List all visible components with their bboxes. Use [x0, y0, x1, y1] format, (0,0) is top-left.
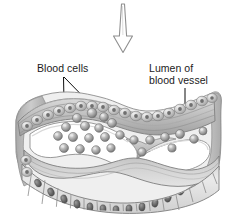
blood-cell [60, 144, 69, 153]
blood-cell-highlight [108, 145, 111, 147]
figure-container: Blood cells Lumen ofblood vessel [0, 0, 231, 217]
blood-cell-highlight [77, 146, 80, 148]
blood-cell [168, 144, 176, 152]
blood-cell [72, 113, 81, 122]
blood-cell [95, 124, 104, 133]
blood-cell [190, 135, 199, 144]
blood-cell [100, 113, 109, 122]
blood-cell-highlight [70, 134, 73, 136]
label-blood-cells: Blood cells [37, 62, 88, 74]
blood-cell-highlight [117, 132, 120, 134]
blood-cell [130, 136, 138, 144]
blood-cell-highlight [131, 137, 134, 139]
blood-cell [54, 132, 63, 141]
blood-cell-highlight [101, 114, 104, 116]
blood-cell [85, 134, 94, 143]
blood-cell-highlight [109, 120, 112, 122]
blood-cell-highlight [55, 133, 58, 135]
blood-vessel-cross-section-illustration [0, 0, 231, 217]
blood-cell-highlight [200, 129, 203, 131]
blood-cell-highlight [63, 124, 66, 126]
blood-cell [92, 146, 101, 155]
blood-cell [68, 132, 77, 141]
blood-cell-highlight [93, 147, 96, 149]
blood-cell [76, 145, 85, 154]
blood-cell [62, 123, 71, 132]
blood-cell-highlight [169, 145, 172, 147]
blood-cell-highlight [147, 137, 150, 139]
blood-cell-highlight [86, 135, 89, 137]
label-lumen-line1: Lumen of [149, 62, 193, 74]
blood-cell [80, 121, 89, 130]
label-lumen-of-blood-vessel: Lumen ofblood vessel [149, 62, 208, 86]
blood-cell [101, 133, 110, 142]
blood-cell-highlight [177, 131, 180, 133]
label-lumen-line2: blood vessel [149, 74, 208, 86]
blood-cell [176, 130, 185, 139]
blood-cell [146, 136, 155, 145]
label-blood-cells-line1: Blood cells [37, 62, 88, 74]
blood-cell [161, 133, 170, 142]
blood-cell-highlight [102, 134, 105, 136]
blood-cell-highlight [162, 134, 165, 136]
vessel-body [16, 92, 221, 217]
blood-cell [199, 127, 207, 135]
blood-cell-highlight [89, 110, 92, 112]
blood-cell [108, 119, 117, 128]
blood-cell-highlight [96, 125, 99, 127]
blood-cell-highlight [191, 136, 194, 138]
blood-cell [116, 131, 125, 140]
blood-cell-highlight [82, 123, 85, 125]
blood-cell-highlight [139, 149, 142, 151]
blood-cell-highlight [61, 145, 64, 147]
blood-cell [87, 108, 97, 118]
blood-cell [138, 148, 146, 156]
blood-cell-highlight [74, 115, 77, 117]
blood-cell [107, 144, 115, 152]
downward-pressure-arrow [114, 4, 133, 53]
